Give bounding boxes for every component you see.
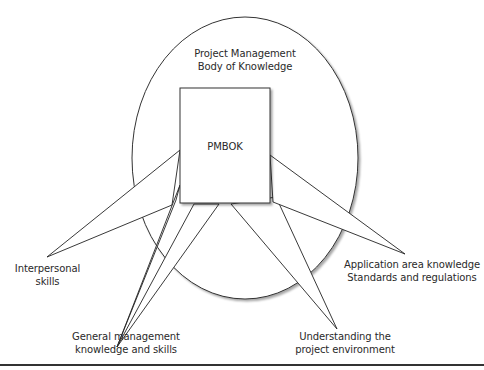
container-label-line1: Project Management: [170, 47, 320, 60]
label-line: skills: [5, 275, 90, 288]
core-label: PMBOK: [180, 140, 270, 153]
label-line: General management: [62, 330, 190, 343]
label-application-area: Application area knowledge Standards and…: [342, 258, 482, 284]
label-line: Understanding the: [290, 330, 400, 343]
core-label-text: PMBOK: [180, 140, 270, 153]
label-line: Application area knowledge: [342, 258, 482, 271]
label-line: project environment: [290, 343, 400, 356]
label-general-management: General management knowledge and skills: [62, 330, 190, 356]
container-label-line2: Body of Knowledge: [170, 60, 320, 73]
label-project-environment: Understanding the project environment: [290, 330, 400, 356]
label-line: knowledge and skills: [62, 343, 190, 356]
label-line: Standards and regulations: [342, 271, 482, 284]
label-line: Interpersonal: [5, 262, 90, 275]
label-interpersonal: Interpersonal skills: [5, 262, 90, 288]
container-label: Project Management Body of Knowledge: [170, 47, 320, 73]
